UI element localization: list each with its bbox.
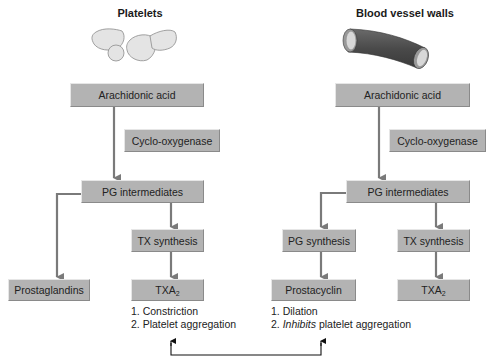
right-arachidonic-acid-box: Arachidonic acid [335, 83, 470, 107]
opposing-effects-bracket [171, 341, 321, 355]
right-cyclo-oxygenase-box: Cyclo-oxygenase [389, 129, 486, 152]
right-tx-synthesis-box: TX synthesis [397, 229, 470, 252]
left-pg-intermediates-box: PG intermediates [81, 180, 204, 203]
right-txa2-label: TXA2 [421, 284, 445, 297]
left-cyclo-oxygenase-box: Cyclo-oxygenase [124, 129, 220, 152]
prostaglandins-label: Prostaglandins [14, 284, 83, 296]
left-cyclo-oxygenase-label: Cyclo-oxygenase [132, 135, 213, 147]
left-pg-intermediates-label: PG intermediates [102, 186, 183, 198]
txa2-effect-1: 1. Constriction [131, 305, 236, 318]
right-pg-intermediates-box: PG intermediates [346, 180, 470, 203]
right-arachidonic-acid-label: Arachidonic acid [364, 89, 441, 101]
txa2-effects: 1. Constriction 2. Platelet aggregation [131, 305, 236, 331]
blood-vessel-illustration [343, 29, 431, 71]
platelets-illustration [92, 29, 176, 61]
left-arachidonic-acid-label: Arachidonic acid [98, 89, 175, 101]
prostacyclin-label: Prostacyclin [285, 284, 342, 296]
right-cyclo-oxygenase-label: Cyclo-oxygenase [397, 135, 478, 147]
inhibits-emphasis: Inhibits [283, 318, 316, 330]
left-txa2-label: TXA2 [155, 284, 179, 297]
left-arachidonic-acid-box: Arachidonic acid [70, 83, 204, 107]
left-txa2-box: TXA2 [131, 279, 204, 301]
prostacyclin-box: Prostacyclin [271, 279, 356, 301]
prostaglandins-box: Prostaglandins [8, 279, 90, 301]
pg-synthesis-box: PG synthesis [282, 229, 356, 252]
pg-synthesis-label: PG synthesis [288, 235, 350, 247]
left-tx-synthesis-label: TX synthesis [137, 235, 197, 247]
right-txa2-box: TXA2 [397, 279, 470, 301]
right-pg-intermediates-label: PG intermediates [367, 186, 448, 198]
prostacyclin-effect-1: 1. Dilation [271, 305, 411, 318]
txa2-effect-2: 2. Platelet aggregation [131, 318, 236, 331]
left-tx-synthesis-box: TX synthesis [131, 229, 204, 252]
right-tx-synthesis-label: TX synthesis [403, 235, 463, 247]
prostacyclin-effect-2: 2. Inhibits platelet aggregation [271, 318, 411, 331]
prostacyclin-effects: 1. Dilation 2. Inhibits platelet aggrega… [271, 305, 411, 331]
